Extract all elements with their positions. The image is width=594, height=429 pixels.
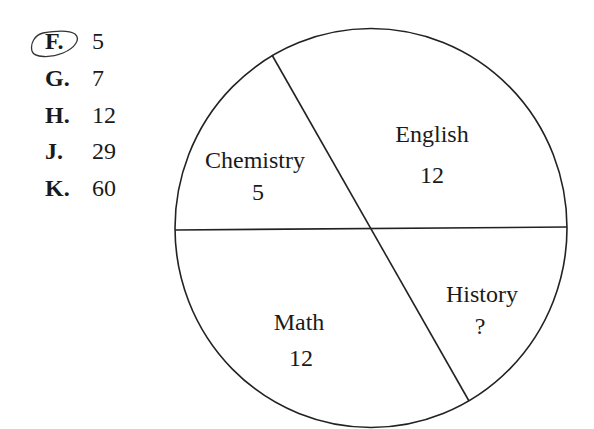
slice-label: Math (274, 309, 325, 335)
slice-value: 12 (289, 345, 313, 371)
slice-math: Math 12 (274, 309, 325, 371)
slice-value: ? (475, 313, 486, 339)
pie-chart: Chemistry 5 English 12 History ? Math 12 (0, 0, 594, 429)
slice-label: Chemistry (205, 147, 305, 173)
slice-chemistry: Chemistry 5 (205, 147, 305, 205)
slice-value: 5 (252, 179, 264, 205)
slice-english: English 12 (395, 121, 468, 188)
slice-value: 12 (420, 162, 444, 188)
slice-label: English (395, 121, 468, 147)
slice-label: History (446, 281, 518, 307)
slice-history: History ? (446, 281, 518, 339)
